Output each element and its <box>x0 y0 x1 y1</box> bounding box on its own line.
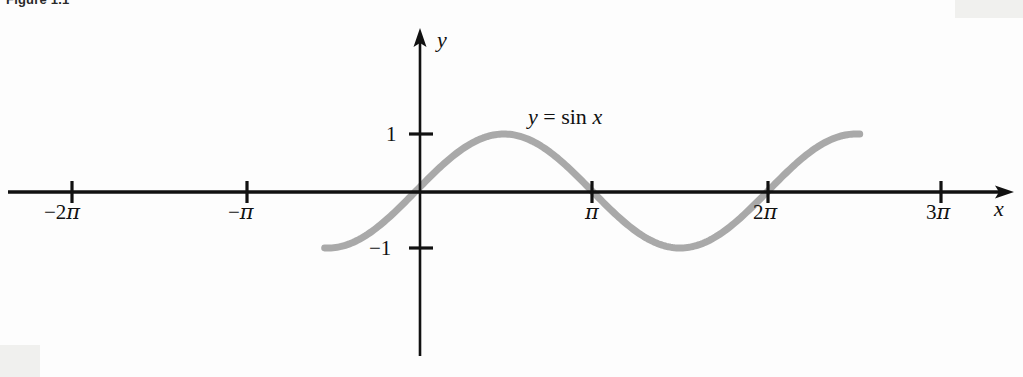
x-axis-label: x <box>994 196 1004 222</box>
figure-container: Figure 1.1 −2π −π π 2π 3π 1 −1 y x <box>0 0 1023 377</box>
y-axis-label: y <box>437 27 447 53</box>
x-tick-label-3pi: 3π <box>926 200 950 225</box>
equation-argument: x <box>592 104 602 129</box>
x-tick-label-neg2pi: −2π <box>44 200 80 225</box>
equation-function: sin <box>561 104 587 129</box>
curve-equation-label: y = sin x <box>528 104 602 130</box>
y-tick-label-one: 1 <box>386 122 397 147</box>
plot-canvas <box>0 0 1023 377</box>
equation-y: y <box>528 104 538 129</box>
y-tick-label-neg-one: −1 <box>369 236 391 261</box>
x-tick-label-2pi: 2π <box>753 200 777 225</box>
equation-equals: = <box>538 104 561 129</box>
x-tick-label-pi: π <box>585 200 599 225</box>
x-tick-label-negpi: −π <box>228 200 254 225</box>
